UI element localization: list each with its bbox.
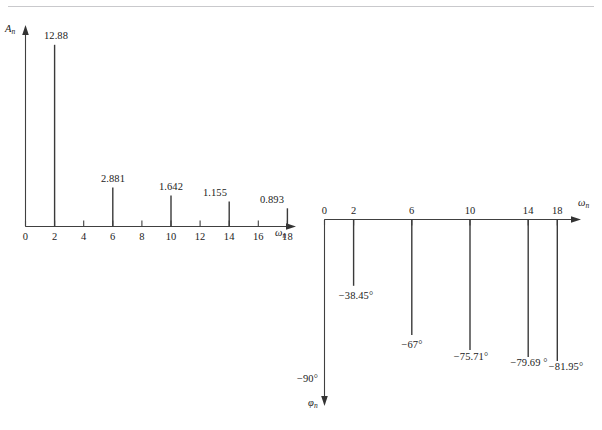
amplitude-x-tick-label: 14 [224, 232, 235, 243]
amplitude-x-tick-label: 12 [195, 232, 206, 243]
phase-stems [354, 220, 558, 361]
phase-y-axis-arrow [321, 396, 328, 406]
phase-axes [321, 216, 581, 406]
phase-x-tick-label: 6 [409, 206, 414, 217]
phase-value-label: −75.71° [454, 352, 488, 363]
amplitude-x-tick-label: 16 [253, 232, 264, 243]
phase-x-axis-arrow [571, 216, 581, 223]
amplitude-value-label: 12.88 [44, 31, 68, 42]
amplitude-x-tick-label: 8 [139, 232, 144, 243]
phase-x-ticks [325, 220, 558, 226]
phase-value-label: −81.95° [549, 362, 583, 373]
amplitude-x-tick-label: 4 [81, 232, 86, 243]
phase-y-axis-label: φn [308, 398, 318, 409]
phase-minus-ninety-label: −90° [297, 374, 318, 385]
amplitude-value-label: 1.155 [203, 188, 227, 199]
amplitude-x-tick-label: 0 [23, 232, 28, 243]
amplitude-value-label: 0.893 [260, 195, 284, 206]
phase-x-tick-label: 0 [322, 206, 327, 217]
amplitude-x-tick-label: 2 [52, 232, 57, 243]
amplitude-x-tick-label: 18 [282, 232, 293, 243]
amplitude-stems [55, 45, 288, 227]
amplitude-y-axis-arrow [22, 25, 29, 35]
amplitude-value-label: 2.881 [101, 174, 125, 185]
figure-root: An ωn 12.88 2.881 1.642 1.155 0.893 0 2 … [0, 0, 602, 430]
amplitude-x-ticks [26, 221, 288, 227]
phase-x-axis-label: ωn [578, 198, 589, 209]
phase-x-tick-label: 2 [351, 206, 356, 217]
phase-x-tick-label: 14 [523, 206, 534, 217]
amplitude-x-tick-label: 10 [166, 232, 177, 243]
amplitude-value-label: 1.642 [159, 182, 183, 193]
phase-value-label: −38.45° [339, 291, 373, 302]
amplitude-axes [22, 25, 296, 230]
phase-x-tick-label: 18 [552, 206, 563, 217]
phase-value-label: −67° [401, 340, 422, 351]
amplitude-x-tick-label: 6 [110, 232, 115, 243]
phase-value-label: −79.69 ° [510, 358, 547, 369]
phase-x-tick-label: 10 [465, 206, 476, 217]
amplitude-y-axis-label: An [5, 24, 15, 35]
